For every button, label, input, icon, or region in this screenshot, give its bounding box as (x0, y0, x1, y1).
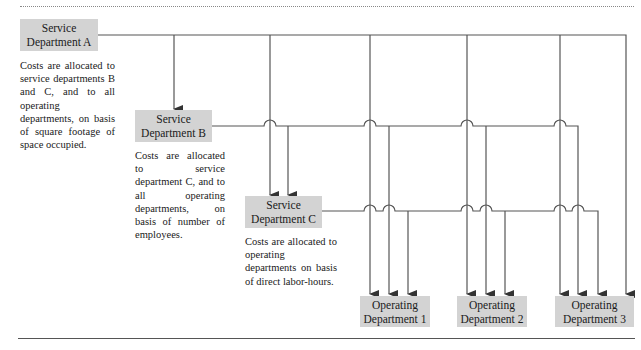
box-label-line2: Department 2 (461, 312, 524, 326)
box-label-line1: Operating (572, 298, 618, 312)
box-label-line1: Service (156, 112, 190, 126)
box-label-line2: Department A (27, 35, 92, 49)
service-department-a-box: Service Department A (20, 19, 98, 51)
box-label-line2: Department B (141, 126, 206, 140)
operating-department-1-box: Operating Department 1 (360, 296, 430, 327)
box-label-line2: Department C (251, 212, 316, 226)
allocation-flow-lines (0, 0, 641, 350)
service-department-a-description: Costs are allocated to service departmen… (20, 59, 115, 151)
box-label-line2: Department 3 (563, 312, 626, 326)
operating-department-3-box: Operating Department 3 (555, 296, 634, 327)
service-department-b-description: Costs are allocated to service departmen… (135, 149, 225, 241)
box-label-line2: Department 1 (364, 312, 427, 326)
box-label-line1: Operating (469, 298, 515, 312)
box-label-line1: Service (42, 21, 76, 35)
service-department-b-box: Service Department B (135, 110, 212, 142)
box-label-line1: Operating (372, 298, 418, 312)
service-department-c-box: Service Department C (245, 196, 322, 228)
box-label-line1: Service (266, 198, 300, 212)
bottom-rule (18, 338, 635, 339)
service-department-c-description: Costs are allocated to operating departm… (245, 235, 337, 288)
operating-department-2-box: Operating Department 2 (457, 296, 527, 327)
